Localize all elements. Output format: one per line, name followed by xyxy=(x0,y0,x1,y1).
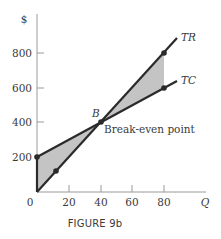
point-marker xyxy=(161,85,167,91)
x-tick-label: 60 xyxy=(125,196,138,208)
x-tick-label: 40 xyxy=(94,196,107,208)
x-tick-label: 20 xyxy=(62,196,75,208)
point-marker xyxy=(161,50,167,56)
figure-caption: FIGURE 9b xyxy=(68,218,123,229)
y-tick-label: 200 xyxy=(12,151,32,163)
y-tick-label: 600 xyxy=(12,82,32,94)
point-marker xyxy=(34,154,40,160)
tc-label: TC xyxy=(181,74,196,86)
break-even-label: Break-even point xyxy=(104,123,196,135)
break-even-b-label: B xyxy=(91,107,100,119)
tc-line xyxy=(37,81,177,157)
break-even-chart: $ 800 600 400 200 0 20 40 60 80 Q TR TC … xyxy=(0,0,221,239)
y-tick-label: 800 xyxy=(12,47,32,59)
tr-label: TR xyxy=(181,31,196,43)
tr-line xyxy=(37,38,177,192)
y-axis-label: $ xyxy=(21,13,28,25)
break-even-marker xyxy=(98,119,104,125)
x-tick-label: 0 xyxy=(27,196,34,208)
x-tick-label: 80 xyxy=(157,196,170,208)
point-marker xyxy=(53,168,59,174)
y-tick-label: 400 xyxy=(12,116,32,128)
x-axis-label: Q xyxy=(201,196,210,209)
